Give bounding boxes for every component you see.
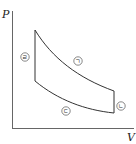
- svg-text:ㄷ: ㄷ: [63, 107, 69, 114]
- label-d: ㄹ: [21, 53, 29, 61]
- svg-text:ㄹ: ㄹ: [22, 53, 28, 60]
- y-axis-label: P: [1, 8, 10, 21]
- label-c: ㄷ: [62, 107, 70, 115]
- pv-diagram: P V ㄹ ㄱ ㄴ ㄷ: [0, 0, 136, 144]
- label-a: ㄱ: [74, 57, 82, 65]
- label-b: ㄴ: [117, 102, 125, 110]
- svg-text:ㄱ: ㄱ: [75, 57, 81, 64]
- svg-text:ㄴ: ㄴ: [118, 102, 124, 109]
- x-axis-label: V: [127, 131, 136, 144]
